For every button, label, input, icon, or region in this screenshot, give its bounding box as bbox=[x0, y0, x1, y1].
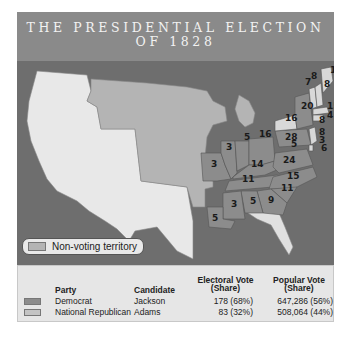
header-party: Party bbox=[55, 286, 76, 294]
non-voting-swatch bbox=[28, 242, 46, 251]
label-vermont: 7 bbox=[305, 77, 311, 87]
header-candidate: Candidate bbox=[134, 286, 175, 294]
label-ohio: 16 bbox=[259, 129, 272, 139]
label-maine-8: 8 bbox=[324, 79, 330, 89]
map-svg: 1 8 8 7 20 16 15 4 8 8 3 6 5 28 16 5 3 3… bbox=[17, 61, 334, 265]
row-nr-party: National Republican bbox=[55, 307, 131, 317]
label-pennsylvania: 28 bbox=[285, 132, 298, 142]
label-connecticut: 8 bbox=[319, 115, 325, 125]
header-popular-line2: (Share) bbox=[263, 284, 335, 292]
label-maine-1: 1 bbox=[330, 65, 334, 75]
michigan-territory bbox=[235, 95, 255, 127]
row-nr-popular: 508,064 (44%) bbox=[263, 307, 333, 317]
row-democrat-popular: 647,286 (56%) bbox=[263, 296, 333, 306]
label-maryland-nr: 6 bbox=[321, 143, 327, 153]
label-kentucky: 14 bbox=[251, 159, 264, 169]
map-title: THE PRESIDENTIAL ELECTION OF 1828 bbox=[17, 12, 334, 61]
state-delaware bbox=[309, 145, 313, 151]
us-map: 1 8 8 7 20 16 15 4 8 8 3 6 5 28 16 5 3 3… bbox=[17, 61, 334, 265]
row-democrat-candidate: Jackson bbox=[134, 296, 165, 306]
label-missouri: 3 bbox=[211, 159, 217, 169]
label-new-hampshire: 8 bbox=[311, 71, 317, 81]
header-electoral-vote: Electoral Vote (Share) bbox=[193, 276, 258, 292]
democrat-swatch bbox=[24, 298, 41, 305]
label-north-carolina: 15 bbox=[287, 171, 300, 181]
label-louisiana: 5 bbox=[212, 213, 218, 223]
national-republican-swatch bbox=[24, 309, 41, 316]
title-line-1: THE PRESIDENTIAL ELECTION bbox=[17, 21, 334, 35]
header-popular-vote: Popular Vote (Share) bbox=[263, 276, 335, 292]
label-rhode-island: 4 bbox=[327, 110, 333, 120]
election-map-figure: THE PRESIDENTIAL ELECTION OF 1828 bbox=[17, 12, 334, 322]
header-electoral-line2: (Share) bbox=[193, 284, 258, 292]
non-voting-label: Non-voting territory bbox=[52, 241, 137, 252]
label-illinois: 3 bbox=[226, 142, 232, 152]
label-tennessee: 11 bbox=[242, 174, 255, 184]
row-democrat-electoral: 178 (68%) bbox=[193, 296, 253, 306]
non-voting-legend: Non-voting territory bbox=[22, 238, 144, 255]
label-indiana: 5 bbox=[244, 132, 250, 142]
results-legend: Party Candidate Electoral Vote (Share) P… bbox=[17, 265, 334, 322]
label-georgia: 9 bbox=[268, 195, 274, 205]
row-democrat-party: Democrat bbox=[55, 296, 92, 306]
title-line-2: OF 1828 bbox=[17, 35, 334, 49]
florida-territory bbox=[245, 211, 293, 255]
label-new-york-nr: 16 bbox=[285, 113, 298, 123]
row-nr-electoral: 83 (32%) bbox=[193, 307, 253, 317]
label-mississippi: 3 bbox=[231, 199, 237, 209]
label-new-york-dem: 20 bbox=[301, 101, 314, 111]
label-alabama: 5 bbox=[250, 196, 256, 206]
label-south-carolina: 11 bbox=[281, 183, 294, 193]
row-nr-candidate: Adams bbox=[134, 307, 160, 317]
label-virginia: 24 bbox=[283, 155, 296, 165]
